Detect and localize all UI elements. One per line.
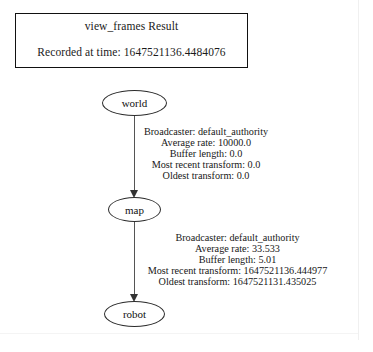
page-edge-line bbox=[358, 0, 359, 340]
graph-node-map[interactable]: map bbox=[108, 197, 161, 222]
graph-node-world[interactable]: world bbox=[102, 90, 167, 116]
graph-edge-world-map-label: Broadcaster: default_authority Average r… bbox=[126, 127, 286, 182]
tf-tree-page: view_frames Result Recorded at time: 164… bbox=[0, 0, 373, 352]
page-edge-bottom-line bbox=[0, 333, 358, 334]
result-title: view_frames Result bbox=[16, 19, 247, 33]
graph-node-robot[interactable]: robot bbox=[104, 301, 165, 327]
recorded-at-time-label: Recorded at time: 1647521136.4484076 bbox=[16, 45, 247, 59]
view-frames-result-box: view_frames Result Recorded at time: 164… bbox=[15, 13, 248, 68]
edge1-most-recent-transform: Most recent transform: 0.0 bbox=[126, 160, 286, 171]
graph-node-robot-label: robot bbox=[123, 308, 146, 320]
graph-node-map-label: map bbox=[125, 204, 144, 216]
edge2-oldest-transform: Oldest transform: 1647521131.435025 bbox=[122, 277, 353, 288]
edge1-oldest-transform: Oldest transform: 0.0 bbox=[126, 171, 286, 182]
edge2-most-recent-transform: Most recent transform: 1647521136.444977 bbox=[122, 266, 353, 277]
graph-edge-map-robot-label: Broadcaster: default_authority Average r… bbox=[122, 233, 353, 288]
graph-node-world-label: world bbox=[122, 97, 148, 109]
